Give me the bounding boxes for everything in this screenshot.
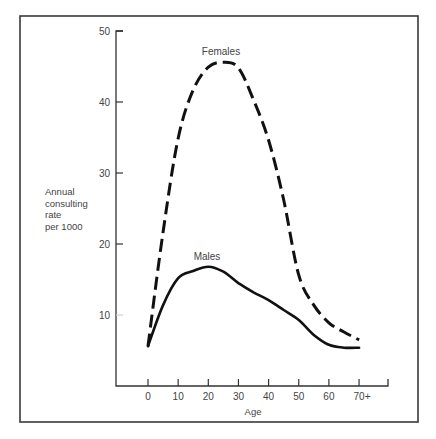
- chart-frame: [20, 16, 418, 422]
- series-females-line: [148, 62, 359, 346]
- x-tick-label: 10: [173, 391, 185, 402]
- y-tick-label: 40: [99, 97, 111, 108]
- y-tick-label: 10: [99, 310, 111, 321]
- x-tick-label: 20: [203, 391, 215, 402]
- x-tick-label: 50: [293, 391, 305, 402]
- y-axis-ticks: 1020304050: [99, 26, 123, 321]
- y-tick-label: 30: [99, 168, 111, 179]
- series-label-males: Males: [194, 251, 221, 262]
- x-tick-label: 40: [263, 391, 275, 402]
- y-axis-title: Annualconsultingrateper 1000: [45, 186, 88, 232]
- x-axis-title: Age: [245, 406, 262, 417]
- x-tick-label: 70+: [354, 391, 371, 402]
- x-tick-label: 60: [323, 391, 335, 402]
- x-tick-label: 0: [145, 391, 151, 402]
- series-label-females: Females: [202, 46, 240, 57]
- y-axis-title-line: per 1000: [45, 221, 83, 232]
- series-males-line: [148, 267, 359, 348]
- line-chart: 1020304050 010203040506070+ Annualconsul…: [0, 0, 436, 439]
- y-axis-title-line: rate: [45, 209, 61, 220]
- x-axis-ticks: 010203040506070+: [145, 379, 370, 402]
- y-tick-label: 50: [99, 26, 111, 37]
- y-tick-label: 20: [99, 239, 111, 250]
- x-tick-label: 30: [233, 391, 245, 402]
- y-axis-title-line: consulting: [45, 198, 88, 209]
- y-axis-title-line: Annual: [45, 186, 75, 197]
